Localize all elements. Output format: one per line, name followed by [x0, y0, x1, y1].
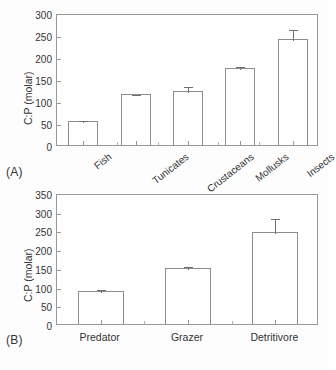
y-tick-mark: [57, 81, 61, 82]
y-tick-label: 0: [46, 321, 52, 332]
panel-b-tag: (B): [6, 333, 23, 347]
x-minor-tick: [232, 321, 233, 324]
error-bar-cap-crustaceans: [184, 87, 193, 88]
x-tick-mark: [293, 141, 294, 145]
x-tick-label-mollusks: Mollusks: [254, 151, 291, 184]
y-tick-label: 350: [35, 190, 52, 201]
y-tick-mark: [57, 251, 61, 252]
bar-tunicates: [121, 94, 151, 145]
x-minor-tick: [117, 142, 118, 145]
x-minor-tick: [144, 321, 145, 324]
y-tick-label: 50: [41, 302, 52, 313]
panel-b-plot-area: 050100150200250300350: [56, 194, 318, 325]
error-bar-cap-mollusks: [236, 67, 245, 68]
x-minor-tick: [259, 142, 260, 145]
x-tick-mark: [83, 141, 84, 145]
x-tick-mark: [136, 141, 137, 145]
panel-a: (A) C:P (molar) 050100150200250300 FishT…: [0, 0, 328, 188]
panel-b-y-axis-title: C:P (molar): [22, 249, 34, 302]
x-tick-label-predator: Predator: [80, 331, 120, 343]
error-bar-detritivore: [275, 219, 276, 234]
x-tick-label-insects: Insects: [305, 151, 336, 179]
error-bar-cap-insects: [289, 30, 298, 31]
y-tick-label: 250: [35, 227, 52, 238]
y-tick-label: 50: [41, 120, 52, 131]
y-tick-label: 100: [35, 98, 52, 109]
error-bar-cap-grazer: [184, 267, 193, 268]
x-tick-mark: [240, 141, 241, 145]
y-tick-label: 200: [35, 54, 52, 65]
y-tick-label: 100: [35, 283, 52, 294]
y-tick-label: 250: [35, 32, 52, 43]
bar-mollusks: [225, 68, 255, 145]
x-tick-label-tunicates: Tunicates: [150, 151, 191, 186]
y-tick-mark: [57, 59, 61, 60]
x-tick-mark: [275, 320, 276, 324]
y-tick-label: 300: [35, 10, 52, 21]
x-tick-label-grazer: Grazer: [171, 331, 203, 343]
x-tick-mark: [188, 320, 189, 324]
bar-insects: [278, 39, 308, 145]
y-tick-mark: [57, 37, 61, 38]
bar-grazer: [165, 268, 211, 324]
error-bar-insects: [293, 30, 294, 41]
y-tick-mark: [57, 289, 61, 290]
x-tick-mark: [188, 141, 189, 145]
error-bar-cap-fish: [79, 121, 88, 122]
error-bar-cap-tunicates: [132, 95, 141, 96]
error-bar-cap-detritivore: [271, 219, 280, 220]
panel-a-y-axis-title: C:P (molar): [22, 72, 34, 125]
y-tick-mark: [57, 232, 61, 233]
x-tick-label-detritivore: Detritivore: [250, 331, 298, 343]
x-minor-tick: [158, 142, 159, 145]
y-tick-label: 150: [35, 76, 52, 87]
bar-detritivore: [252, 232, 298, 324]
x-tick-mark: [101, 320, 102, 324]
x-minor-tick: [218, 142, 219, 145]
y-tick-label: 200: [35, 246, 52, 257]
y-tick-mark: [57, 270, 61, 271]
panel-b: (B) C:P (molar) 050100150200250300350 Pr…: [0, 182, 328, 370]
y-tick-label: 150: [35, 264, 52, 275]
y-tick-mark: [57, 125, 61, 126]
y-tick-mark: [57, 214, 61, 215]
panel-a-plot-area: 050100150200250300: [56, 14, 318, 146]
y-tick-label: 300: [35, 208, 52, 219]
y-tick-mark: [57, 307, 61, 308]
y-tick-mark: [57, 103, 61, 104]
panel-a-tag: (A): [6, 165, 23, 179]
bar-crustaceans: [173, 91, 203, 145]
y-tick-label: 0: [46, 142, 52, 153]
error-bar-cap-predator: [97, 290, 106, 291]
x-tick-label-fish: Fish: [92, 151, 114, 171]
